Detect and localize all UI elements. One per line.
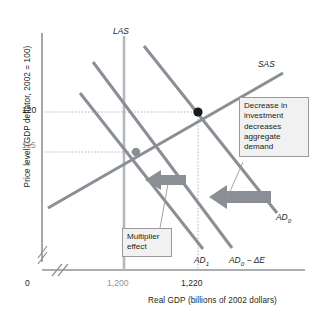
curve-ad0-minus-delta-e	[93, 62, 232, 248]
callout-decrease-in-investment: Decrease in investment decreases aggrega…	[239, 97, 309, 157]
curve-label-ad0de-base: AD	[229, 255, 241, 265]
curve-label-ad0-subscript: 0	[288, 217, 291, 224]
x-tick-label-origin: 0	[25, 278, 30, 288]
equilibrium-dot-new	[132, 148, 140, 156]
curve-label-ad1-base: AD	[194, 255, 206, 265]
curve-label-ad0-minus-delta-e: AD0 − ΔE	[229, 255, 265, 267]
equilibrium-dot-initial	[193, 107, 202, 116]
y-tick-label-115: 115	[22, 140, 36, 150]
y-tick-label-120: 120	[22, 105, 36, 115]
leader-line-multiplier-callout	[160, 184, 168, 228]
curve-label-sas: SAS	[258, 59, 275, 69]
x-tick-label-1220: 1,220	[181, 278, 203, 288]
shift-arrow-investment	[209, 185, 271, 209]
leader-line-decrease-callout	[228, 162, 243, 196]
curve-label-las: LAS	[113, 26, 129, 36]
curve-label-ad0-base: AD	[276, 212, 288, 222]
chart-plot-area	[0, 0, 317, 314]
shift-arrow-multiplier	[145, 170, 186, 190]
x-axis-title: Real GDP (billions of 2002 dollars)	[148, 296, 277, 305]
x-tick-label-1200: 1,200	[107, 278, 129, 288]
curve-label-ad0de-rest: − ΔE	[244, 255, 265, 265]
curve-ad1	[80, 93, 203, 249]
as-ad-diagram-figure: Price level (GDP deflator, 2002 = 100) R…	[0, 0, 317, 314]
curve-label-ad1-subscript: 1	[206, 260, 209, 267]
y-axis-title: Price level (GDP deflator, 2002 = 100)	[23, 27, 32, 207]
curve-label-ad0: AD0	[276, 212, 291, 224]
callout-multiplier-effect: Multiplier effect	[122, 228, 172, 257]
curve-label-ad1: AD1	[194, 255, 209, 267]
